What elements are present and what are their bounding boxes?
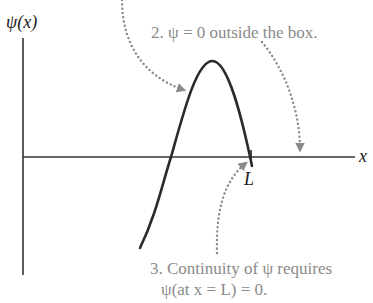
wavefunction-diagram — [0, 0, 373, 303]
dotted-arrow-to-curve — [122, 0, 184, 90]
dotted-arrow-outside-box — [262, 42, 300, 150]
dotted-arrow-continuity — [217, 163, 246, 253]
note-psi-zero-outside: 2. ψ = 0 outside the box. — [151, 24, 318, 41]
y-axis-label: ψ(x) — [6, 13, 37, 31]
x-axis-label: x — [359, 147, 367, 165]
boundary-label-l: L — [244, 170, 254, 188]
note-continuity-line1: 3. Continuity of ψ requires — [150, 260, 332, 277]
note-continuity-line2: ψ(at x = L) = 0. — [161, 281, 267, 298]
wavefunction-curve — [140, 61, 252, 248]
